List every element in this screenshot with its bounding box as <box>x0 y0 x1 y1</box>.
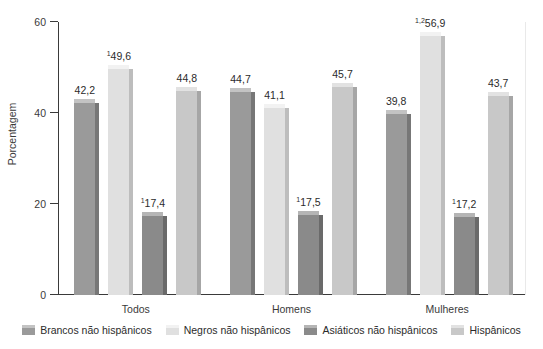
bar-value-text: 17,4 <box>145 197 165 209</box>
bar-top-face <box>454 213 475 217</box>
bar-side-face <box>475 217 479 295</box>
y-tick-mark <box>50 112 58 113</box>
y-tick-label: 40 <box>6 108 46 118</box>
bar <box>420 36 441 295</box>
label-superscript: 1,2 <box>415 17 425 24</box>
bar-value-label: 117,4 <box>130 198 175 209</box>
legend-label: Hispânicos <box>469 324 520 336</box>
bar-front-face <box>332 87 353 295</box>
bar-top-face <box>298 211 319 215</box>
legend-label: Brancos não hispânicos <box>40 324 152 336</box>
bar-value-text: 56,9 <box>425 17 445 29</box>
bar-value-label: 44,8 <box>164 73 209 84</box>
x-axis-group-label: Mulheres <box>369 303 525 315</box>
bar <box>488 96 509 295</box>
y-axis-title: Porcentagem <box>6 74 18 194</box>
x-axis-group-label: Homens <box>214 303 370 315</box>
bar-side-face <box>353 87 357 295</box>
bar-top-face <box>264 104 285 108</box>
legend-label: Asiáticos não hispânicos <box>322 324 437 336</box>
y-tick-label: 20 <box>6 199 46 209</box>
bar-value-label: 117,5 <box>286 197 331 208</box>
swatch-front-face <box>22 328 35 335</box>
bar-value-label: 1,256,9 <box>408 18 453 29</box>
bar-value-text: 42,2 <box>75 84 95 96</box>
bar-value-label: 117,2 <box>442 199 487 210</box>
bar-value-label: 44,7 <box>218 74 263 85</box>
legend-color-swatch <box>22 325 35 335</box>
bar-front-face <box>108 69 129 295</box>
bar <box>176 91 197 295</box>
bar-front-face <box>142 216 163 295</box>
plot-right-edge <box>525 22 526 295</box>
legend-item: Hispânicos <box>451 324 520 336</box>
bar-side-face <box>95 103 99 295</box>
legend-color-swatch <box>451 325 464 335</box>
bar <box>264 108 285 295</box>
y-tick-mark <box>50 294 58 295</box>
bar-front-face <box>230 92 251 295</box>
x-axis-group-label: Todos <box>58 303 214 315</box>
bar-value-text: 39,8 <box>386 95 406 107</box>
y-tick-label: 60 <box>6 17 46 27</box>
bar-top-face <box>420 32 441 36</box>
bar-chart-figure: Porcentagem 0204060 42,2149,6117,444,844… <box>0 0 543 349</box>
bar-front-face <box>74 103 95 295</box>
swatch-front-face <box>304 328 317 335</box>
bar-side-face <box>163 216 167 295</box>
bar-value-label: 43,7 <box>476 78 521 89</box>
legend-item: Asiáticos não hispânicos <box>304 324 437 336</box>
bar <box>108 69 129 295</box>
bar-value-label: 39,8 <box>374 96 419 107</box>
bar-value-text: 44,8 <box>177 72 197 84</box>
bar-top-face <box>488 92 509 96</box>
swatch-front-face <box>166 328 179 335</box>
legend-color-swatch <box>304 325 317 335</box>
bar-top-face <box>74 99 95 103</box>
bar-value-text: 17,2 <box>456 198 476 210</box>
bar-value-text: 44,7 <box>230 73 250 85</box>
bar-front-face <box>264 108 285 295</box>
y-tick-mark <box>50 203 58 204</box>
legend-color-swatch <box>166 325 179 335</box>
bar-top-face <box>230 88 251 92</box>
chart-legend: Brancos não hispânicosNegros não hispâni… <box>0 322 543 338</box>
bar <box>454 217 475 295</box>
bar-value-text: 41,1 <box>264 89 284 101</box>
bar-front-face <box>298 215 319 295</box>
bar-front-face <box>386 114 407 295</box>
bar-value-label: 149,6 <box>96 51 141 62</box>
figure-footnote <box>14 341 534 349</box>
bar-side-face <box>251 92 255 295</box>
bar <box>74 103 95 295</box>
bar-value-text: 49,6 <box>111 50 131 62</box>
legend-label: Negros não hispânicos <box>184 324 291 336</box>
bar-top-face <box>142 212 163 216</box>
bar-value-text: 17,5 <box>300 196 320 208</box>
bar-value-label: 41,1 <box>252 90 297 101</box>
legend-item: Brancos não hispânicos <box>22 324 152 336</box>
bar-top-face <box>176 87 197 91</box>
bar-side-face <box>129 69 133 295</box>
bar-value-label: 45,7 <box>320 69 365 80</box>
bar-side-face <box>407 114 411 295</box>
bar-side-face <box>509 96 513 295</box>
bar-value-text: 43,7 <box>488 77 508 89</box>
bar-value-text: 45,7 <box>332 68 352 80</box>
bar-top-face <box>386 110 407 114</box>
bar-top-face <box>332 83 353 87</box>
bar <box>298 215 319 295</box>
bar-front-face <box>176 91 197 295</box>
bar-front-face <box>454 217 475 295</box>
bar <box>332 87 353 295</box>
swatch-front-face <box>451 328 464 335</box>
bar-front-face <box>488 96 509 295</box>
bar <box>386 114 407 295</box>
bar-side-face <box>197 91 201 295</box>
bar-side-face <box>319 215 323 295</box>
y-tick-label: 0 <box>6 290 46 300</box>
bar-front-face <box>420 36 441 295</box>
legend-item: Negros não hispânicos <box>166 324 291 336</box>
bar <box>230 92 251 295</box>
bar-side-face <box>441 36 445 295</box>
